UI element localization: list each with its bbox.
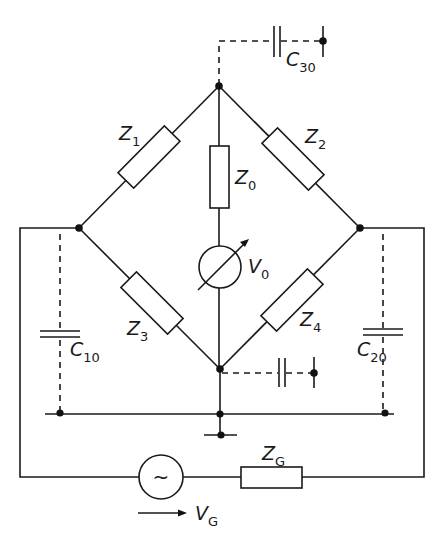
node-bottom xyxy=(216,365,224,373)
label-z0: Z0 xyxy=(234,166,256,193)
arm-z2 xyxy=(219,86,360,228)
label-zg: ZG xyxy=(261,442,285,469)
node-right xyxy=(356,224,364,232)
arm-z4 xyxy=(220,228,360,369)
arm-z3 xyxy=(79,228,220,369)
bridge-circuit-diagram: ~ xyxy=(0,0,445,547)
label-z1: Z1 xyxy=(118,122,140,149)
label-z3: Z3 xyxy=(126,317,148,344)
arrow-head-icon xyxy=(178,510,187,517)
node-top xyxy=(215,82,223,90)
label-z2: Z2 xyxy=(304,125,326,152)
detector-branch xyxy=(198,86,249,369)
label-c10: C10 xyxy=(70,338,100,365)
label-vg: VG xyxy=(195,502,218,529)
ac-source-symbol: ~ xyxy=(153,465,170,489)
label-c30: C30 xyxy=(286,48,316,75)
node-left xyxy=(75,224,83,232)
impedance-z0 xyxy=(210,146,229,208)
capacitor-c10 xyxy=(40,234,80,412)
ac-source-vg: ~ xyxy=(138,455,187,517)
label-v0: V0 xyxy=(248,255,269,282)
ground-bus xyxy=(45,369,394,439)
label-z4: Z4 xyxy=(299,308,321,335)
capacitor-bottom-node xyxy=(222,357,318,388)
capacitor-c20 xyxy=(363,234,403,412)
impedance-zg xyxy=(241,467,302,488)
capacitor-c30 xyxy=(219,26,327,85)
arm-z1 xyxy=(79,86,219,228)
